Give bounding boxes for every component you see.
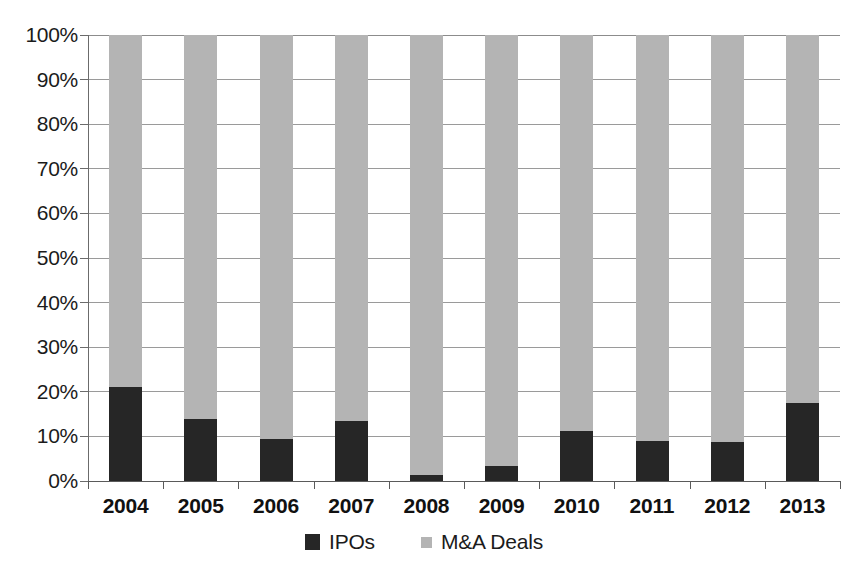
y-tick-mark xyxy=(80,302,88,303)
chart-legend: IPOsM&A Deals xyxy=(0,530,848,554)
y-tick-mark xyxy=(80,258,88,259)
bar-segment-ipos[interactable] xyxy=(711,442,744,481)
legend-label: M&A Deals xyxy=(441,530,543,554)
legend-item-ipos[interactable]: IPOs xyxy=(305,530,375,554)
x-tick-mark xyxy=(163,481,164,489)
bar-group[interactable] xyxy=(636,35,669,481)
x-tick-mark xyxy=(840,481,841,489)
bar-group[interactable] xyxy=(485,35,518,481)
y-axis-tick-label: 70% xyxy=(4,157,78,181)
y-tick-mark xyxy=(80,79,88,80)
bar-group[interactable] xyxy=(786,35,819,481)
bar-group[interactable] xyxy=(410,35,443,481)
x-tick-mark xyxy=(389,481,390,489)
x-axis-tick-label-2010: 2010 xyxy=(539,494,614,518)
bar-segment-ma-deals[interactable] xyxy=(184,35,217,419)
bar-segment-ma-deals[interactable] xyxy=(560,35,593,431)
bar-segment-ipos[interactable] xyxy=(184,419,217,481)
legend-item-ma-deals[interactable]: M&A Deals xyxy=(421,530,543,554)
plot-area xyxy=(88,35,840,481)
y-axis-tick-label: 30% xyxy=(4,335,78,359)
x-tick-mark xyxy=(464,481,465,489)
y-axis-tick-label: 0% xyxy=(4,469,78,493)
y-tick-mark xyxy=(80,481,88,482)
bar-group[interactable] xyxy=(109,35,142,481)
x-axis-tick-label-2004: 2004 xyxy=(88,494,163,518)
y-axis-labels: 0%10%20%30%40%50%60%70%80%90%100% xyxy=(0,35,78,481)
bar-group[interactable] xyxy=(184,35,217,481)
bar-segment-ma-deals[interactable] xyxy=(260,35,293,439)
y-axis-tick-label: 40% xyxy=(4,291,78,315)
bar-segment-ipos[interactable] xyxy=(109,387,142,481)
x-tick-mark xyxy=(690,481,691,489)
x-tick-mark xyxy=(88,481,89,489)
legend-swatch-icon xyxy=(305,534,320,550)
y-tick-mark xyxy=(80,391,88,392)
x-tick-mark xyxy=(614,481,615,489)
bar-segment-ma-deals[interactable] xyxy=(109,35,142,387)
y-axis-tick-label: 20% xyxy=(4,380,78,404)
y-axis-tick-label: 60% xyxy=(4,201,78,225)
y-tick-mark xyxy=(80,213,88,214)
bar-segment-ipos[interactable] xyxy=(636,441,669,481)
y-axis-tick-label: 50% xyxy=(4,246,78,270)
x-tick-mark xyxy=(238,481,239,489)
x-axis-tick-label-2008: 2008 xyxy=(389,494,464,518)
y-axis-tick-label: 10% xyxy=(4,424,78,448)
x-axis-tick-label-2013: 2013 xyxy=(765,494,840,518)
y-axis-line xyxy=(88,35,89,482)
bar-segment-ma-deals[interactable] xyxy=(711,35,744,442)
x-axis-tick-label-2006: 2006 xyxy=(238,494,313,518)
x-tick-mark xyxy=(314,481,315,489)
y-tick-mark xyxy=(80,436,88,437)
y-axis-tick-label: 90% xyxy=(4,68,78,92)
bar-segment-ma-deals[interactable] xyxy=(335,35,368,421)
stacked-bar-chart: 0%10%20%30%40%50%60%70%80%90%100% 200420… xyxy=(0,0,848,585)
y-tick-mark xyxy=(80,124,88,125)
x-tick-mark xyxy=(539,481,540,489)
bar-group[interactable] xyxy=(335,35,368,481)
y-tick-mark xyxy=(80,347,88,348)
x-axis-tick-label-2009: 2009 xyxy=(464,494,539,518)
bar-segment-ipos[interactable] xyxy=(260,439,293,481)
bar-group[interactable] xyxy=(711,35,744,481)
x-axis-labels: 2004200520062007200820092010201120122013 xyxy=(88,494,840,526)
bar-segment-ma-deals[interactable] xyxy=(786,35,819,403)
legend-label: IPOs xyxy=(329,530,375,554)
y-axis-tick-label: 80% xyxy=(4,112,78,136)
y-tick-mark xyxy=(80,168,88,169)
x-axis-tick-label-2007: 2007 xyxy=(314,494,389,518)
bar-segment-ipos[interactable] xyxy=(560,431,593,481)
bar-segment-ma-deals[interactable] xyxy=(485,35,518,466)
y-axis-tick-label: 100% xyxy=(4,23,78,47)
y-tick-mark xyxy=(80,35,88,36)
bar-segment-ipos[interactable] xyxy=(786,403,819,481)
x-axis-tick-label-2005: 2005 xyxy=(163,494,238,518)
bar-segment-ipos[interactable] xyxy=(485,466,518,481)
bar-group[interactable] xyxy=(260,35,293,481)
x-axis-tick-label-2011: 2011 xyxy=(614,494,689,518)
bar-segment-ma-deals[interactable] xyxy=(636,35,669,441)
legend-swatch-icon xyxy=(421,537,432,548)
x-tick-mark xyxy=(765,481,766,489)
bar-segment-ipos[interactable] xyxy=(335,421,368,481)
bar-group[interactable] xyxy=(560,35,593,481)
bar-segment-ma-deals[interactable] xyxy=(410,35,443,475)
x-axis-tick-label-2012: 2012 xyxy=(690,494,765,518)
